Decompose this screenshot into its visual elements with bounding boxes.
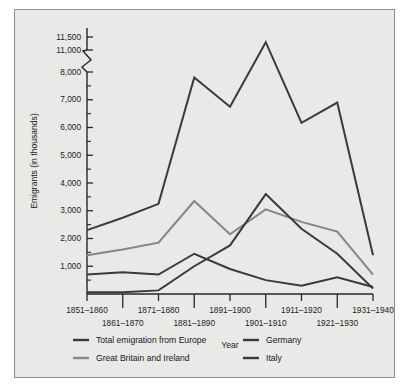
legend-label-great-britain-and-ireland: Great Britain and Ireland [96, 353, 190, 363]
x-tick-label: 1891–1900 [209, 305, 251, 315]
x-tick-label: 1881–1890 [173, 318, 215, 328]
x-axis-title: Year [221, 340, 239, 350]
y-tick-label: 3,000 [60, 205, 81, 215]
y-tick-label: 4,000 [60, 178, 81, 188]
legend-label-total-emigration-from-europe: Total emigration from Europe [96, 335, 207, 345]
legend-label-italy: Italy [266, 353, 282, 363]
chart-plot-area: 1,0002,0003,0004,0005,0006,0007,0008,000… [15, 10, 394, 377]
y-tick-label: 5,000 [60, 150, 81, 160]
y-tick-label: 1,000 [60, 261, 81, 271]
y-tick-label: 11,000 [56, 45, 81, 55]
y-axis-title: Emigrants (in thousands) [29, 113, 39, 209]
x-tick-label: 1861–1870 [102, 318, 144, 328]
x-tick-label: 1931–1940 [352, 305, 394, 315]
legend-label-germany: Germany [266, 335, 302, 345]
y-tick-label: 7,000 [60, 94, 81, 104]
x-tick-label: 1921–1930 [316, 318, 358, 328]
y-tick-label: 2,000 [60, 233, 81, 243]
x-tick-label: 1911–1920 [281, 305, 322, 315]
y-tick-label: 8,000 [60, 67, 81, 77]
y-tick-label: 11,500 [56, 32, 81, 42]
series-line-italy [87, 194, 373, 292]
series-line-germany [87, 254, 373, 287]
y-axis-break-marker [82, 50, 91, 72]
x-tick-label: 1901–1910 [245, 318, 287, 328]
x-tick-label: 1871–1880 [138, 305, 180, 315]
chart-figure: 1,0002,0003,0004,0005,0006,0007,0008,000… [14, 9, 395, 378]
series-line-great-britain-and-ireland [87, 201, 373, 275]
series-line-total-emigration-from-europe [87, 42, 373, 255]
y-tick-label: 6,000 [60, 122, 81, 132]
emigration-line-chart: 1,0002,0003,0004,0005,0006,0007,0008,000… [15, 10, 394, 377]
x-tick-label: 1851–1860 [66, 305, 108, 315]
